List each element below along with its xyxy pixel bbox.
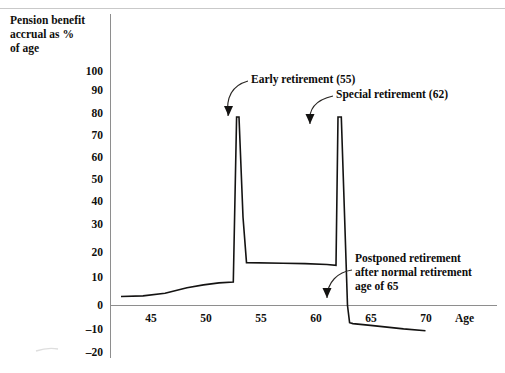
y-axis-title-line-2: accrual as % [10, 28, 74, 40]
annotation-early-retirement-label: Early retirement (55) [251, 73, 355, 86]
y-tick-label-80: 80 [92, 107, 104, 119]
chart-page: Pension benefit accrual as % of age 100 … [0, 0, 505, 373]
y-tick-label-60: 60 [92, 151, 104, 163]
y-tick-label-30: 30 [92, 218, 104, 230]
y-tick-label-90: 90 [92, 84, 104, 96]
annotation-special-retirement-label: Special retirement (62) [336, 88, 448, 101]
x-tick-label-50: 50 [200, 312, 212, 324]
annotation-postponed-retirement-line-3: age of 65 [355, 280, 399, 293]
x-tick-label-65: 65 [365, 312, 377, 324]
y-tick-label-100: 100 [86, 65, 104, 77]
y-tick-label-0: 0 [97, 299, 103, 311]
y-tick-label-minus-10: –10 [85, 323, 104, 335]
y-axis-title-line-3: of age [10, 42, 39, 55]
y-tick-label-70: 70 [92, 129, 104, 141]
x-tick-label-70: 70 [420, 312, 432, 324]
y-tick-label-10: 10 [92, 271, 104, 283]
pension-accrual-chart: Pension benefit accrual as % of age 100 … [0, 0, 505, 373]
x-axis-title: Age [455, 312, 474, 325]
y-tick-label-50: 50 [92, 173, 104, 185]
y-tick-label-40: 40 [92, 195, 104, 207]
x-tick-label-55: 55 [255, 312, 267, 324]
x-tick-label-60: 60 [310, 312, 322, 324]
y-axis-title-line-1: Pension benefit [10, 14, 85, 26]
annotation-postponed-retirement-line-2: after normal retirement [355, 266, 472, 278]
y-tick-label-minus-20: –20 [85, 346, 104, 358]
annotation-postponed-retirement-line-1: Postponed retirement [355, 252, 461, 265]
y-tick-label-20: 20 [92, 246, 104, 258]
x-tick-label-45: 45 [145, 312, 157, 324]
